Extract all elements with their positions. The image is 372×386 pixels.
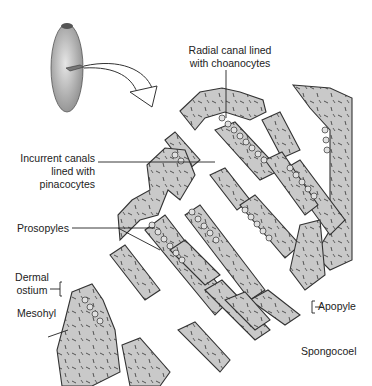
label-prosopyles: Prosopyles [17,222,69,235]
label-radial-canal-line2: with choanocytes [178,57,282,70]
tissue-section [57,85,352,386]
label-dermal-ostium-line1: Dermal [15,271,49,284]
label-dermal-ostium-line2: ostium [15,284,49,297]
magnify-arrow-icon [84,63,157,107]
label-incurrent-canals: Incurrent canals lined with pinacocytes [0,152,95,191]
label-incurrent-line1: Incurrent canals [0,152,95,165]
sponge-body-illustration [51,23,84,112]
label-spongocoel: Spongocoel [301,345,356,358]
sponge-canal-diagram: Radial canal lined with choanocytes Incu… [0,0,372,386]
label-incurrent-line2: lined with [0,165,95,178]
label-dermal-ostium: Dermal ostium [15,271,49,297]
label-mesohyl: Mesohyl [17,307,56,320]
label-apopyle: Apopyle [318,300,356,313]
label-radial-canal-line1: Radial canal lined [178,44,282,57]
label-incurrent-line3: pinacocytes [0,178,95,191]
label-radial-canal: Radial canal lined with choanocytes [178,44,282,70]
